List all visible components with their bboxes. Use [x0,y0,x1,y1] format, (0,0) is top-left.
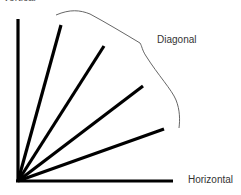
diagonal-line-1 [18,25,61,181]
diagonal-line-2 [18,46,104,181]
diagonal-line-3 [18,86,143,181]
diagonal-label: Diagonal [157,34,196,45]
diagonal-line-4 [18,129,164,181]
horizontal-label: Horizontal [188,174,233,185]
diagonal-brace [56,11,180,128]
line-fan-diagram [0,0,241,195]
